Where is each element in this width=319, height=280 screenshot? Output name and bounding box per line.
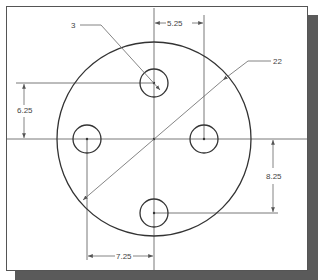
label-8-25: 8.25 [266, 172, 282, 181]
label-5-25: 5.25 [167, 19, 183, 28]
label-6-25: 6.25 [17, 106, 33, 115]
label-plate-diameter: 22 [273, 57, 282, 66]
technical-drawing: 3 22 5.25 6.25 8.25 7.25 [0, 0, 319, 280]
centerlines [7, 8, 308, 271]
label-7-25: 7.25 [116, 252, 132, 261]
label-hole-diameter: 3 [71, 21, 76, 30]
holes [73, 69, 218, 227]
leader-hole-diameter [80, 25, 160, 90]
center-marks [86, 82, 205, 214]
